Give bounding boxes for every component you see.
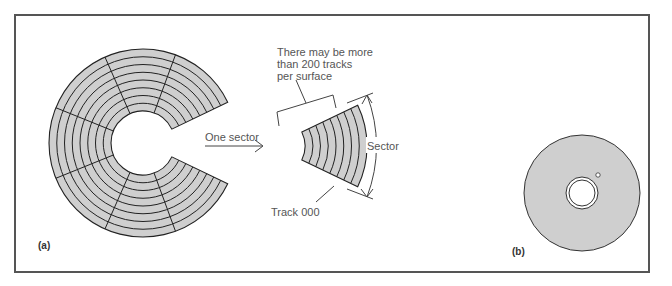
track-000-leader (316, 186, 334, 202)
tracks-note-line1: There may be more (277, 46, 373, 58)
one-sector-label: One sector (205, 131, 259, 143)
tracks-note-line2: than 200 tracks (277, 58, 353, 70)
track-000-label: Track 000 (271, 206, 320, 218)
tracks-note-line3: per surface (277, 70, 332, 82)
disk-a-tracks-sectors (49, 49, 228, 237)
disk-a-platter (49, 49, 228, 237)
disk-diagram: One sector There may be more than 200 tr… (0, 0, 672, 286)
panel-b-label: (b) (512, 246, 525, 257)
tracks-bracket (277, 80, 336, 126)
extracted-sector (302, 105, 367, 187)
disk-b (524, 135, 640, 251)
panel-a-label: (a) (38, 240, 50, 251)
sector-wedge (302, 105, 367, 187)
sector-label: Sector (367, 140, 399, 152)
disk-b-index-hole (596, 173, 600, 177)
disk-b-spindle-hole (569, 180, 595, 206)
